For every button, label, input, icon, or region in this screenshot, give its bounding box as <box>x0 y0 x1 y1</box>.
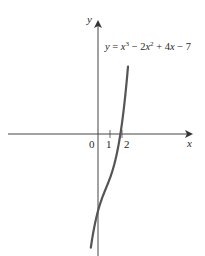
eq-plus-4: + 4 <box>154 41 171 52</box>
origin-label: 0 <box>89 138 95 150</box>
x-axis-label: x <box>186 137 192 149</box>
y-axis-label: y <box>86 13 92 25</box>
function-plot: y x 0 1 2 y = x3 − 2x2 + 4x − 7 <box>0 0 205 256</box>
x-tick-label-2: 2 <box>124 138 130 150</box>
eq-equals: = <box>110 41 121 52</box>
equation-label: y = x3 − 2x2 + 4x − 7 <box>104 40 191 52</box>
eq-minus-7: − 7 <box>175 41 191 52</box>
x-tick-label-1: 1 <box>106 138 112 150</box>
eq-minus-2: − 2 <box>129 41 145 52</box>
function-curve <box>91 67 128 248</box>
